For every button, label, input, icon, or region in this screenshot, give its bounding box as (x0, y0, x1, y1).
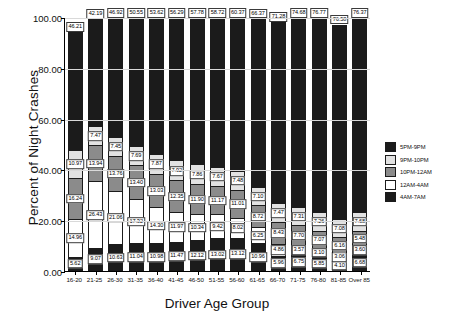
bar-segment[interactable]: 21.06 (108, 191, 123, 244)
bar-segment[interactable]: 50.55 (129, 18, 144, 146)
bar-segment[interactable]: 56.29 (169, 18, 184, 160)
bar-column[interactable]: 6.683.605.487.6876.37 (352, 18, 367, 271)
x-axis-tick-mark (157, 271, 158, 275)
bar-column[interactable]: 4.103.066.167.0876.58 (332, 18, 347, 271)
bar-segment[interactable]: 42.19 (88, 19, 103, 126)
bar-segment[interactable]: 10.97 (68, 150, 83, 178)
bar-segment[interactable]: 3.10 (312, 248, 327, 256)
bar-segment[interactable]: 7.86 (190, 164, 205, 184)
bar-value-label: 7.87 (149, 160, 164, 170)
bar-segment[interactable]: 9.42 (210, 214, 225, 238)
legend-item[interactable]: 4AM-7AM (385, 192, 459, 202)
bar-segment[interactable]: 11.04 (129, 243, 144, 271)
legend-item[interactable]: 9PM-10PM (385, 155, 459, 165)
bar-column[interactable]: 12.1210.3411.907.8657.78 (190, 18, 205, 271)
bar-column[interactable]: 9.0726.4313.947.4742.19 (88, 18, 103, 271)
bar-column[interactable]: 5.964.868.437.4771.28 (271, 18, 286, 271)
bar-segment[interactable]: 11.47 (169, 242, 184, 271)
bar-segment[interactable]: 7.31 (291, 207, 306, 226)
bar-segment[interactable]: 10.98 (149, 243, 164, 271)
bar-segment[interactable]: 3.60 (352, 245, 367, 254)
bar-column[interactable]: 11.4711.9712.357.9256.29 (169, 18, 184, 271)
bar-segment[interactable]: 10.34 (190, 214, 205, 240)
bar-segment[interactable]: 58.72 (210, 18, 225, 167)
bar-column[interactable]: 6.753.577.707.3174.68 (291, 18, 306, 271)
bar-segment[interactable]: 9.07 (88, 248, 103, 271)
bar-segment[interactable]: 14.96 (68, 219, 83, 257)
bar-segment[interactable]: 13.76 (108, 156, 123, 191)
bar-column[interactable]: 13.029.4211.177.6758.72 (210, 18, 225, 271)
x-axis-tick-label: 21-25 (84, 276, 104, 290)
bar-segment[interactable]: 71.28 (271, 22, 286, 203)
bar-segment[interactable]: 7.47 (88, 126, 103, 145)
bar-segment[interactable]: 11.97 (169, 212, 184, 242)
bar-segment[interactable]: 12.12 (190, 240, 205, 271)
bar-segment[interactable]: 13.94 (88, 145, 103, 180)
bar-segment[interactable]: 6.16 (332, 237, 347, 253)
bar-column[interactable]: 5.6214.9616.2410.9746.21 (68, 18, 83, 271)
bar-segment[interactable]: 60.37 (230, 18, 245, 171)
bar-segment[interactable]: 14.30 (149, 207, 164, 243)
bar-column[interactable]: 5.853.107.077.2676.77 (312, 18, 327, 271)
bar-segment[interactable]: 7.47 (271, 203, 286, 222)
bar-column[interactable]: 13.128.0211.017.4860.37 (230, 18, 245, 271)
bar-segment[interactable]: 5.96 (271, 256, 286, 271)
x-axis-tick-mark (198, 271, 199, 275)
bar-segment[interactable]: 7.70 (291, 225, 306, 244)
bar-segment[interactable]: 4.86 (271, 244, 286, 256)
bar-segment[interactable]: 74.68 (291, 18, 306, 207)
bar-segment[interactable]: 46.21 (68, 32, 83, 149)
bar-value-label: 76.77 (310, 8, 328, 18)
bar-value-label: 11.04 (128, 252, 145, 262)
bar-segment[interactable]: 10.96 (251, 243, 266, 271)
bar-value-label: 3.06 (332, 252, 347, 262)
bar-value-label: 7.47 (88, 132, 103, 142)
bar-segment[interactable]: 66.37 (251, 19, 266, 188)
bar-segment[interactable]: 7.10 (251, 187, 266, 205)
legend-item[interactable]: 12AM-4AM (385, 180, 459, 190)
bar-column[interactable]: 10.6321.0613.767.4546.92 (108, 18, 123, 271)
bar-segment[interactable]: 53.62 (149, 18, 164, 154)
legend-item[interactable]: 5PM-9PM (385, 142, 459, 152)
bar-segment[interactable]: 11.17 (210, 186, 225, 214)
bar-segment[interactable]: 5.62 (68, 257, 83, 271)
bar-segment[interactable]: 6.68 (352, 254, 367, 271)
bar-segment[interactable]: 7.45 (108, 137, 123, 156)
bar-value-label: 74.68 (290, 8, 308, 18)
bar-segment[interactable]: 7.69 (129, 146, 144, 165)
bar-segment[interactable]: 16.24 (68, 178, 83, 219)
bar-segment[interactable]: 6.75 (291, 254, 306, 271)
legend-label: 9PM-10PM (400, 157, 429, 163)
bar-segment[interactable]: 10.63 (108, 244, 123, 271)
bar-segment[interactable]: 13.12 (230, 238, 245, 271)
bar-segment[interactable]: 13.02 (210, 238, 225, 271)
bar-segment[interactable]: 3.06 (332, 253, 347, 261)
legend-item[interactable]: 10PM-12AM (385, 167, 459, 177)
bar-segment[interactable]: 6.25 (251, 227, 266, 243)
bar-segment[interactable]: 57.78 (190, 18, 205, 164)
bar-column[interactable]: 10.9814.3013.037.8753.62 (149, 18, 164, 271)
bar-value-label: 6.68 (353, 258, 368, 268)
bar-segment[interactable]: 4.10 (332, 261, 347, 271)
bar-segment[interactable]: 8.72 (251, 205, 266, 227)
bar-segment[interactable]: 7.48 (230, 171, 245, 190)
bar-segment[interactable]: 5.85 (312, 256, 327, 271)
bar-segment[interactable]: 13.03 (149, 174, 164, 207)
bar-segment[interactable]: 11.90 (190, 184, 205, 214)
bar-segment[interactable]: 26.43 (88, 181, 103, 248)
bar-column[interactable]: 11.0417.3213.407.6950.55 (129, 18, 144, 271)
bar-segment[interactable]: 5.48 (352, 231, 367, 245)
x-axis-tick-label: 46-50 (186, 276, 206, 290)
bar-segment[interactable]: 12.35 (169, 180, 184, 211)
bar-segment[interactable]: 76.37 (352, 18, 367, 212)
bar-value-label: 10.98 (148, 252, 166, 262)
bar-value-label: 5.85 (312, 259, 327, 269)
bar-segment[interactable]: 8.43 (271, 222, 286, 243)
x-axis-tick-mark (218, 271, 219, 275)
bar-segment[interactable]: 7.07 (312, 231, 327, 249)
bar-column[interactable]: 10.966.258.727.1066.37 (251, 18, 266, 271)
bar-segment[interactable]: 3.57 (291, 245, 306, 254)
bar-segment[interactable]: 76.58 (332, 25, 347, 220)
bar-segment[interactable]: 76.77 (312, 18, 327, 212)
bar-segment[interactable]: 11.01 (230, 190, 245, 218)
